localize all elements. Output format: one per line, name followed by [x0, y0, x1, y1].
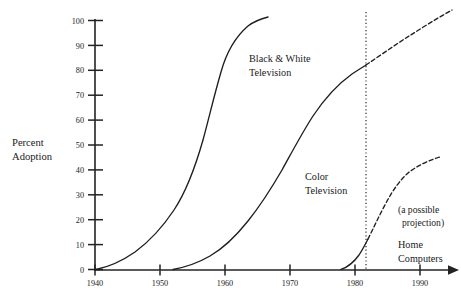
y-tick-label-30: 30 [76, 191, 84, 200]
series-label-color-television-line1: Color [305, 171, 329, 182]
y-tick-label-20: 20 [76, 216, 84, 225]
x-tick-label-1990: 1990 [412, 279, 428, 288]
y-tick-label-50: 50 [76, 141, 84, 150]
y-axis-title-line1: Percent [12, 137, 44, 148]
x-tick-label-1960: 1960 [217, 279, 233, 288]
series-label-color-television-line2: Television [305, 185, 347, 196]
projection-note-line2: projection) [402, 217, 444, 229]
y-tick-label-10: 10 [76, 241, 84, 250]
x-tick-label-1980: 1980 [347, 279, 363, 288]
y-tick-label-60: 60 [76, 116, 84, 125]
adoption-curves-chart: 100 90 80 70 60 50 40 30 20 10 0 1940 19… [0, 0, 461, 303]
y-tick-label-90: 90 [76, 42, 84, 51]
series-label-home-computers-line2: Computers [398, 253, 443, 264]
series-label-black-white-television-line2: Television [249, 67, 291, 78]
y-tick-label-80: 80 [76, 66, 84, 75]
y-tick-label-40: 40 [76, 166, 84, 175]
series-curve-color-television-observed [173, 65, 366, 270]
x-tick-label-1940: 1940 [87, 279, 103, 288]
y-tick-label-100: 100 [72, 17, 84, 26]
series-curve-color-television-projection [366, 10, 452, 65]
series-label-black-white-television-line1: Black & White [249, 53, 311, 64]
x-tick-label-1950: 1950 [152, 279, 168, 288]
series-curve-black-white-television [96, 17, 268, 270]
y-tick-label-0: 0 [80, 266, 84, 275]
series-label-home-computers-line1: Home [398, 239, 423, 250]
chart-canvas: 100 90 80 70 60 50 40 30 20 10 0 1940 19… [0, 0, 461, 303]
projection-note-line1: (a possible [398, 204, 439, 216]
x-axis-arrow-icon [448, 265, 459, 275]
y-axis-title-line2: Adoption [12, 151, 53, 162]
y-tick-label-70: 70 [76, 91, 84, 100]
x-tick-label-1970: 1970 [282, 279, 298, 288]
